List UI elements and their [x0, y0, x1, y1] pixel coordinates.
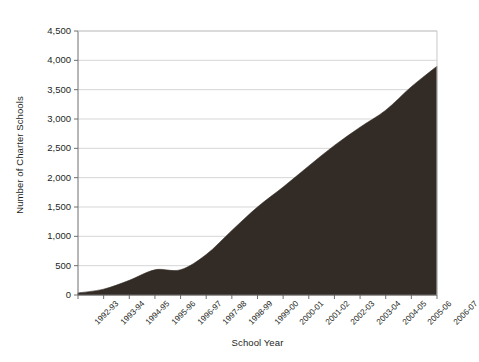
y-tick-mark-group	[74, 31, 78, 295]
x-tick-mark-group	[78, 295, 437, 299]
area-series-charter-schools	[78, 66, 437, 295]
